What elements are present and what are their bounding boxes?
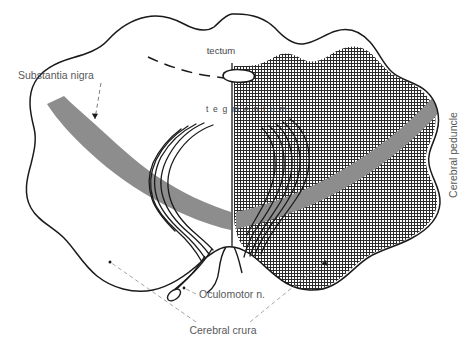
label-oculomotor-nerve: Oculomotor n. — [199, 288, 265, 300]
leader-endpoint-dot-oculomotor — [183, 287, 186, 290]
cerebral-aqueduct — [223, 70, 254, 83]
label-substantia-nigra: Substantia nigra — [18, 69, 94, 81]
label-tegmentum: t e g m e n t u m — [206, 104, 288, 114]
midbrain-cross-section-diagram: Substantia nigra tectum t e g m e n t u … — [0, 0, 469, 352]
label-cerebral-crura: Cerebral crura — [189, 324, 256, 336]
leader-endpoint-dot-left-crus — [109, 261, 112, 264]
label-tectum: tectum — [207, 45, 236, 56]
label-cerebral-peduncle: Cerebral peduncle — [447, 112, 459, 198]
